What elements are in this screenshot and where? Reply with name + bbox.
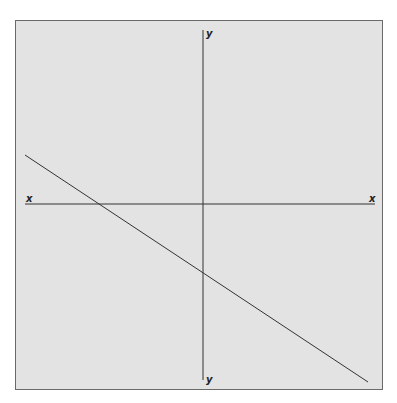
y-axis-label-top: y: [206, 28, 213, 39]
x-axis-label-right: x: [368, 193, 376, 204]
y-axis-label-bottom: y: [206, 374, 213, 385]
graph-canvas: y y x x: [0, 0, 397, 403]
graph-line: [25, 155, 368, 382]
x-axis-label-left: x: [25, 193, 33, 204]
